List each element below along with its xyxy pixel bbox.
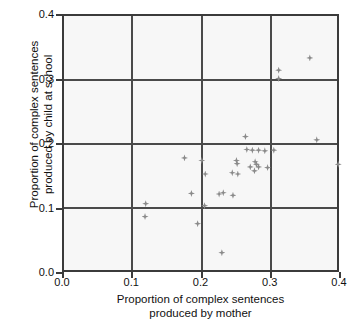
- x-axis-label-line2: produced by mother: [62, 306, 339, 320]
- x-tick-label-0.0: 0.0: [54, 276, 69, 288]
- data-point: [234, 160, 241, 167]
- y-tick-0.0: [56, 272, 62, 274]
- data-point: [242, 133, 249, 140]
- data-point: [229, 169, 236, 176]
- data-point: [247, 163, 254, 170]
- x-axis-label: Proportion of complex sentences produced…: [62, 292, 339, 321]
- gridline-horizontal-0.3: [64, 79, 337, 81]
- gridline-horizontal-0.1: [64, 207, 337, 209]
- y-axis-label-line1: Proportion of complex sentences: [28, 41, 40, 208]
- data-point: [202, 171, 209, 178]
- data-point: [249, 147, 256, 154]
- y-axis-label-line2: produced by child at school: [41, 19, 55, 229]
- y-tick-label-0.0: 0.0: [39, 266, 54, 278]
- y-tick-0.3: [56, 79, 62, 81]
- y-tick-label-0.4: 0.4: [39, 8, 54, 20]
- data-point: [220, 189, 227, 196]
- data-point: [181, 154, 188, 161]
- data-point: [261, 147, 268, 154]
- data-point: [306, 54, 313, 61]
- y-tick-0.1: [56, 208, 62, 210]
- data-point: [335, 161, 342, 168]
- data-point: [251, 167, 258, 174]
- data-point: [218, 249, 225, 256]
- x-tick-label-0.3: 0.3: [262, 276, 277, 288]
- data-point: [188, 190, 195, 197]
- data-point: [255, 147, 262, 154]
- y-tick-0.2: [56, 143, 62, 145]
- data-point: [275, 67, 282, 74]
- data-point: [275, 75, 282, 82]
- gridline-horizontal-0.2: [64, 143, 337, 145]
- y-axis-label: Proportion of complex sentences produced…: [27, 19, 56, 229]
- data-point: [243, 146, 250, 153]
- x-tick-label-0.2: 0.2: [193, 276, 208, 288]
- data-point: [198, 157, 205, 164]
- scatter-chart-figure: 0.00.10.20.30.40.00.10.20.30.4 Proportio…: [0, 0, 350, 327]
- data-point: [229, 192, 236, 199]
- data-point: [234, 171, 241, 178]
- x-tick-label-0.4: 0.4: [331, 276, 346, 288]
- data-point: [142, 213, 149, 220]
- data-point: [216, 191, 223, 198]
- y-tick-0.4: [56, 14, 62, 16]
- x-axis-label-line1: Proportion of complex sentences: [117, 293, 284, 305]
- plot-area: [62, 14, 339, 272]
- x-tick-label-0.1: 0.1: [124, 276, 139, 288]
